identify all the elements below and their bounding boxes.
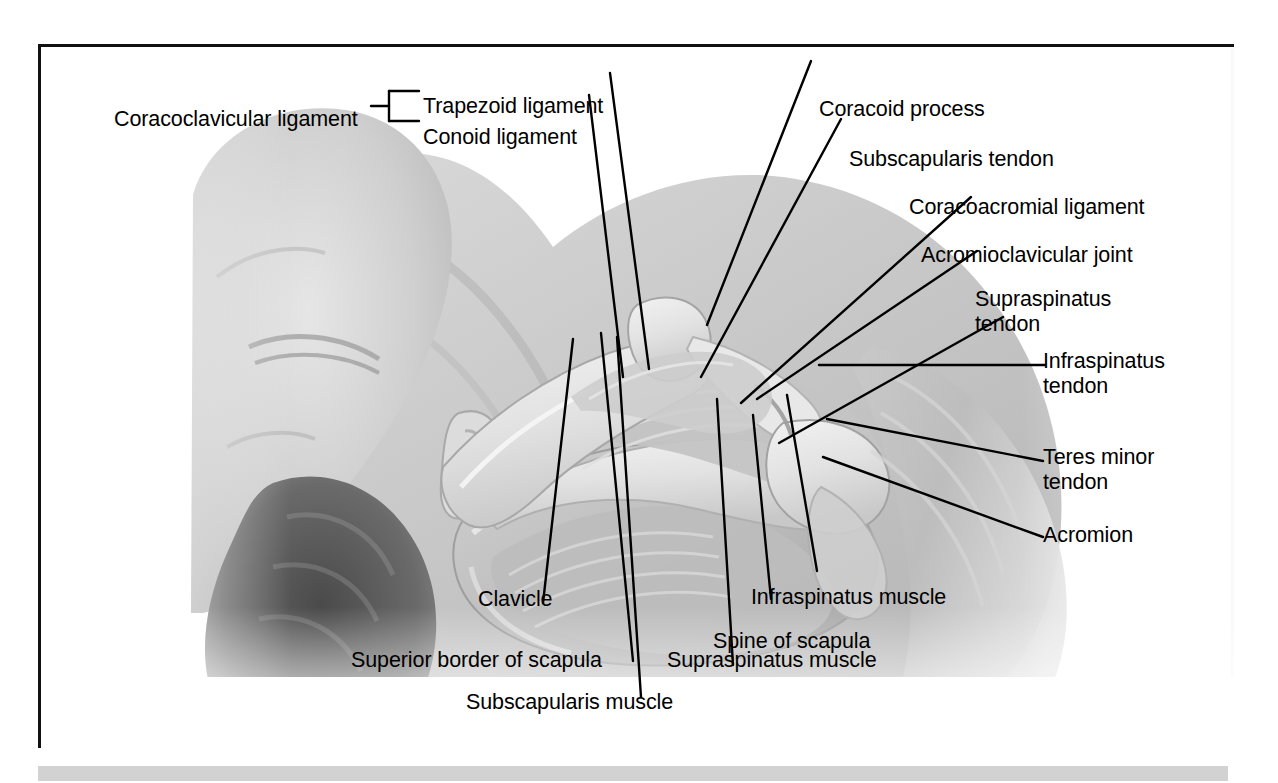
label-clavicle: Clavicle: [478, 587, 552, 612]
clavicle: [441, 342, 711, 527]
label-coracoacromial-ligament: Coracoacromial ligament: [909, 195, 1145, 220]
label-subscapularis-tendon: Subscapularis tendon: [849, 147, 1054, 172]
label-infraspinatus-tendon: Infraspinatus tendon: [1043, 349, 1165, 399]
anatomy-illustration: [41, 47, 1237, 751]
label-teres-minor-tendon: Teres minor tendon: [1043, 445, 1154, 495]
label-acromioclavicular-joint: Acromioclavicular joint: [921, 243, 1133, 268]
subscapularis-muscle: [571, 352, 772, 434]
acromioclavicular-joint: [755, 385, 791, 435]
supraspinatus-muscle: [541, 374, 886, 498]
label-coracoclavicular-ligament: Coracoclavicular ligament: [114, 107, 358, 132]
page-root: Coracoclavicular ligament Trapezoid liga…: [0, 0, 1278, 783]
coracoacromial-ligament: [687, 337, 822, 445]
label-superior-border-of-scapula: Superior border of scapula: [351, 648, 602, 673]
label-conoid-ligament: Conoid ligament: [423, 125, 577, 150]
spine-of-scapula: [481, 439, 860, 530]
deltoid-upper-arm: [853, 347, 1067, 751]
bottom-gray-bar: [38, 766, 1228, 781]
label-supraspinatus-muscle: Supraspinatus muscle: [667, 648, 877, 673]
label-coracoid-process: Coracoid process: [819, 97, 985, 122]
label-infraspinatus-muscle: Infraspinatus muscle: [751, 585, 946, 610]
label-acromion: Acromion: [1043, 523, 1133, 548]
coracoid-process: [628, 297, 711, 380]
label-subscapularis-muscle: Subscapularis muscle: [466, 690, 673, 715]
label-supraspinatus-tendon: Supraspinatus tendon: [975, 287, 1111, 337]
label-trapezoid-ligament: Trapezoid ligament: [423, 94, 603, 119]
figure-frame: Coracoclavicular ligament Trapezoid liga…: [38, 44, 1234, 748]
acromion: [766, 420, 889, 534]
